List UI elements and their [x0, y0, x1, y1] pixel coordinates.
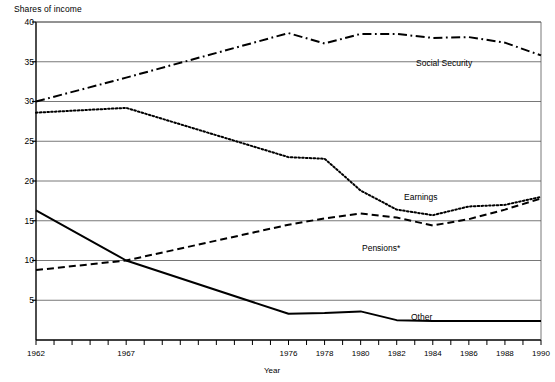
x-axis-ticks	[36, 340, 541, 345]
series-label-pensions: Pensions*	[362, 243, 400, 253]
x-tick-label: 1982	[379, 349, 415, 358]
data-series-lines	[36, 33, 541, 321]
series-label-social-security: Social Security	[416, 58, 472, 68]
x-tick-label: 1980	[343, 349, 379, 358]
x-tick-label: 1978	[307, 349, 343, 358]
x-tick-label: 1967	[108, 349, 144, 358]
series-label-earnings: Earnings	[404, 192, 438, 202]
x-tick-label: 1962	[18, 349, 54, 358]
x-axis-title: Year	[264, 366, 280, 375]
series-label-other: Other	[411, 312, 432, 322]
x-tick-label: 1984	[415, 349, 451, 358]
x-tick-label: 1988	[487, 349, 523, 358]
chart-container: Shares of income 40 35 30 25 20 15 10 5 …	[0, 0, 555, 382]
x-tick-label: 1990	[523, 349, 555, 358]
x-tick-label: 1986	[451, 349, 487, 358]
x-tick-label: 1976	[271, 349, 307, 358]
